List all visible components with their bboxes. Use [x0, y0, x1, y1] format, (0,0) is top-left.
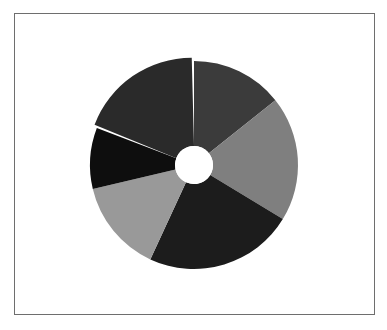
donut-chart	[0, 0, 387, 330]
donut-hole	[175, 146, 213, 184]
